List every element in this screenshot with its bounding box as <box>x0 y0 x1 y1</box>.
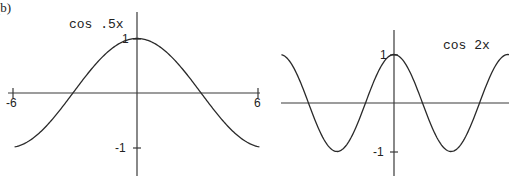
left-plot-title: cos .5x <box>69 18 124 31</box>
right-tick-label-yneg1: -1 <box>373 146 384 158</box>
right-tick-label-y1: 1 <box>380 49 387 61</box>
left-tick-label-y1: 1 <box>122 33 129 45</box>
left-tick-label-yneg1: -1 <box>115 142 126 154</box>
left-tick-label-x6: 6 <box>254 97 261 109</box>
right-plot-title: cos 2x <box>443 39 490 52</box>
left-plot-axes <box>8 12 260 176</box>
left-tick-label-xneg6: -6 <box>6 97 17 109</box>
